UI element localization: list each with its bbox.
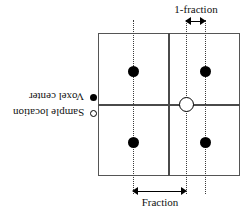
arrow-head-right-icon [181, 187, 187, 195]
legend-item-voxel-center: Voxel center [2, 90, 98, 104]
dimension-label-one-minus-fraction: 1-fraction [156, 3, 236, 15]
figure-canvas: 1-fraction Fraction Voxel center Sample … [0, 0, 252, 214]
open-circle-icon [90, 110, 97, 117]
sample-location-marker [179, 97, 194, 112]
voxel-center-marker [200, 66, 211, 77]
dimension-label-fraction: Fraction [120, 196, 200, 208]
arrow-head-right-icon [200, 17, 206, 25]
legend-item-sample-location: Sample location [2, 106, 98, 120]
filled-circle-icon [90, 94, 97, 101]
voxel-center-marker [128, 66, 139, 77]
guide-line-right [205, 20, 206, 194]
guide-line-left [133, 20, 134, 194]
arrow-shaft [136, 191, 183, 192]
grid-midline-horizontal [98, 104, 240, 106]
legend-item-label: Voxel center [29, 90, 84, 104]
voxel-center-marker [128, 137, 139, 148]
voxel-center-marker [200, 137, 211, 148]
dimension-arrow-one-minus-fraction [185, 17, 206, 26]
legend-item-label: Sample location [13, 106, 84, 120]
dimension-arrow-fraction [132, 187, 187, 196]
